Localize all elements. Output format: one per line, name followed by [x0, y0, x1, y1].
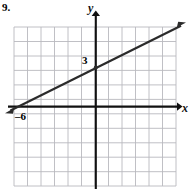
y-intercept-point — [94, 66, 98, 70]
y-axis-label: y — [88, 1, 93, 16]
line-arrow-left-icon — [5, 108, 14, 114]
x-axis-label: x — [182, 101, 188, 116]
coordinate-plane-svg — [0, 0, 192, 190]
graph-figure: 9. — [0, 0, 192, 190]
y-intercept-label: 3 — [82, 54, 88, 66]
x-intercept-label: –6 — [15, 110, 26, 122]
